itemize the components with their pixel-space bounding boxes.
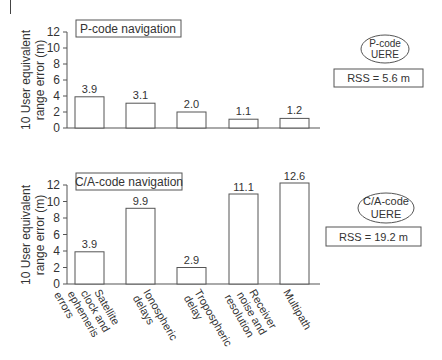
y-tick-label: 10	[47, 41, 61, 55]
y-tick-label: 12	[47, 25, 61, 39]
y-tick-label: 2	[53, 105, 60, 119]
uere-label-line1: P-code	[369, 38, 401, 49]
uere-label-line2: UERE	[371, 208, 402, 220]
chart-title: C/A-code navigation	[75, 175, 183, 189]
bar	[177, 112, 206, 128]
y-axis-label-line1: 10 User equivalent	[19, 29, 33, 130]
svg-text:Multipath: Multipath	[281, 287, 314, 332]
uere-label-line2: UERE	[371, 49, 399, 60]
y-tick-label: 12	[47, 178, 61, 192]
bar-value-label: 3.9	[82, 83, 97, 95]
category-label-multipath: Multipath	[281, 287, 314, 332]
bar-value-label: 3.1	[133, 89, 148, 101]
category-label-ionospheric: Ionospheric delays	[131, 287, 180, 349]
bar	[126, 103, 155, 128]
bar	[177, 268, 206, 285]
chart-title: P-code navigation	[80, 22, 176, 36]
bar	[229, 194, 258, 284]
uere-chart-figure: 10 User equivalent range error (m) 0 2 4…	[0, 0, 442, 360]
bar-value-label: 12.6	[284, 170, 305, 182]
y-tick-label: 6	[53, 228, 60, 242]
bar	[75, 97, 104, 128]
y-tick-label: 8	[53, 211, 60, 225]
bar	[229, 119, 258, 128]
rss-value: RSS = 5.6 m	[347, 72, 410, 84]
y-tick-label: 8	[53, 57, 60, 71]
y-tick-label: 4	[53, 89, 60, 103]
uere-label-line1: C/A-code	[363, 195, 409, 207]
y-axis-label-line1: 10 User equivalent	[19, 184, 33, 285]
bar-value-label: 2.0	[184, 98, 199, 110]
y-axis-label-line2: range error (m)	[33, 195, 47, 276]
y-tick-label: 6	[53, 73, 60, 87]
bar-value-label: 1.2	[287, 104, 302, 116]
y-axis-label-line2: range error (m)	[33, 40, 47, 121]
y-ticks: 0 2 4 6 8 10 12	[47, 178, 67, 291]
y-tick-label: 0	[53, 277, 60, 291]
bar-value-label: 2.9	[184, 254, 199, 266]
bar	[280, 183, 309, 284]
bar-value-label: 3.9	[82, 238, 97, 250]
y-tick-label: 0	[53, 121, 60, 135]
rss-value: RSS = 19.2 m	[339, 231, 408, 243]
y-tick-label: 2	[53, 261, 60, 275]
y-tick-label: 10	[47, 195, 61, 209]
bar	[280, 118, 309, 128]
category-label-receiver: Receiver noise and resolution	[222, 280, 279, 343]
bar-value-label: 9.9	[133, 195, 148, 207]
bar	[75, 252, 104, 284]
bar-value-label: 1.1	[236, 105, 251, 117]
bar-value-label: 11.1	[233, 181, 254, 193]
y-ticks: 0 2 4 6 8 10 12	[47, 25, 67, 135]
p-code-chart: 10 User equivalent range error (m) 0 2 4…	[19, 20, 423, 135]
bar	[126, 208, 155, 284]
ca-code-chart: 10 User equivalent range error (m) 0 2 4…	[19, 170, 421, 355]
y-tick-label: 4	[53, 244, 60, 258]
